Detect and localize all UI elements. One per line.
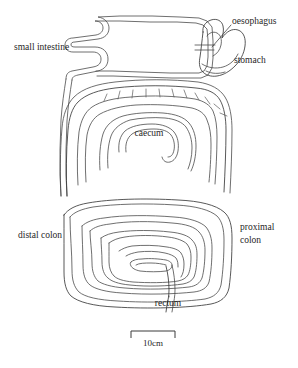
stomach-organ — [195, 19, 245, 76]
scale-bar: 10cm — [131, 331, 175, 348]
label-small-intestine: small intestine — [14, 42, 69, 52]
scale-bar-label: 10cm — [143, 338, 163, 348]
small-intestine-organ — [60, 16, 213, 196]
label-distal-colon: distal colon — [18, 230, 62, 240]
digestive-tract-diagram: small intestine oesophagus stomach caecu… — [0, 0, 298, 368]
label-rectum: rectum — [155, 298, 182, 308]
label-caecum: caecum — [134, 128, 164, 138]
label-stomach: stomach — [234, 55, 266, 65]
caecum-haustra-folds — [104, 89, 227, 116]
label-oesophagus: oesophagus — [232, 16, 277, 26]
colon-organ — [64, 199, 232, 308]
label-proximal-colon-line1: proximal — [240, 222, 275, 232]
label-proximal-colon-line2: colon — [240, 235, 261, 245]
